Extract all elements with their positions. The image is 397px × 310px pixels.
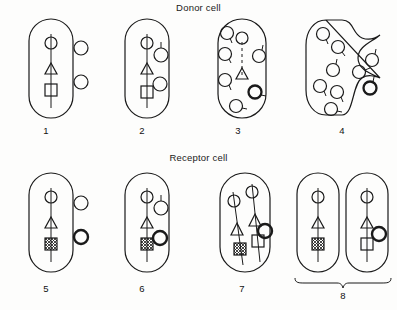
plasmid-circle — [74, 75, 88, 89]
receptor-row-title: Receptor cell — [0, 152, 397, 163]
plasmid-circle — [331, 86, 344, 99]
donor-row-title: Donor cell — [0, 2, 397, 13]
bold-circle-marker — [364, 82, 377, 95]
plasmid-tail — [336, 59, 337, 64]
plasmid-tail — [365, 68, 370, 70]
panel-number-3: 3 — [226, 125, 250, 136]
plasmid-circle — [314, 80, 327, 93]
cell-panel-8 — [291, 170, 395, 295]
cell-panel-2 — [112, 16, 192, 121]
plasmid-circle — [230, 100, 243, 113]
plasmid-circle — [74, 196, 88, 210]
panel-number-5: 5 — [34, 283, 58, 294]
cell-panel-4 — [296, 16, 388, 121]
plasmid-tail — [337, 111, 342, 112]
panel-number-1: 1 — [34, 125, 58, 136]
plasmid-tail — [262, 45, 263, 50]
daughter-cells-brace — [295, 278, 391, 288]
plasmid-circle — [327, 64, 340, 77]
panel-number-2: 2 — [130, 125, 154, 136]
hatched-square-marker — [234, 243, 246, 255]
plasmid-tail — [373, 77, 374, 82]
bold-circle-marker — [153, 231, 167, 245]
plasmid-circle — [221, 27, 234, 40]
bold-circle-marker — [372, 227, 386, 241]
hatched-square-marker — [141, 238, 153, 250]
plasmid-circle — [317, 28, 330, 41]
cell-panel-1 — [16, 16, 96, 121]
plasmid-circle — [253, 50, 266, 63]
plasmid-circle — [153, 77, 167, 91]
plasmid-tail — [229, 59, 231, 63]
plasmid-tail — [341, 97, 343, 102]
cell-membrane — [220, 173, 270, 272]
panel-number-8: 8 — [331, 290, 355, 301]
panel-number-7: 7 — [230, 283, 254, 294]
hatched-square-marker — [45, 238, 57, 250]
cell-panel-6 — [112, 170, 192, 275]
bold-circle-marker — [74, 230, 88, 244]
bold-circle-marker — [249, 86, 262, 99]
plasmid-tail — [261, 95, 266, 96]
plasmid-tail — [324, 91, 326, 96]
plasmid-circle — [219, 74, 232, 87]
plasmid-circle — [325, 103, 338, 116]
plasmid-circle — [74, 41, 88, 55]
plasmid-tail — [375, 49, 376, 54]
panel-number-4: 4 — [330, 125, 354, 136]
plasmid-circle — [154, 201, 168, 215]
plasmid-tail — [229, 85, 231, 90]
panel-number-6: 6 — [130, 283, 154, 294]
plasmid-circle — [353, 66, 366, 79]
plasmid-circle — [366, 54, 379, 67]
plasmid-circle — [154, 48, 168, 62]
plasmid-circle — [219, 48, 232, 61]
hatched-square-marker — [312, 238, 324, 250]
plasmid-circle — [332, 41, 345, 54]
cell-panel-5 — [16, 170, 96, 275]
cell-panel-3 — [205, 16, 287, 121]
cell-panel-7 — [210, 170, 292, 275]
figure-canvas: Donor cell 1 2 — [0, 0, 397, 310]
plasmid-tail — [242, 108, 247, 109]
plasmid-tail — [342, 52, 345, 56]
